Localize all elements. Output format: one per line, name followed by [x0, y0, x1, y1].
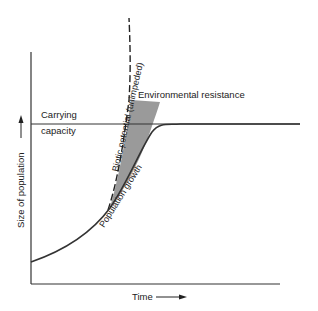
population-growth-curve [31, 124, 300, 262]
carrying-capacity-label-line2: capacity [41, 125, 76, 136]
carrying-capacity-label-line1: Carrying [41, 109, 77, 120]
x-axis-arrow-icon [179, 295, 187, 300]
y-axis-arrow-icon [19, 115, 24, 123]
y-axis-label: Size of population [15, 152, 26, 228]
x-axis-label: Time [132, 291, 153, 302]
environmental-resistance-label: Environmental resistance [138, 89, 245, 100]
logistic-growth-diagram: Carrying capacity Environmental resistan… [0, 0, 318, 311]
